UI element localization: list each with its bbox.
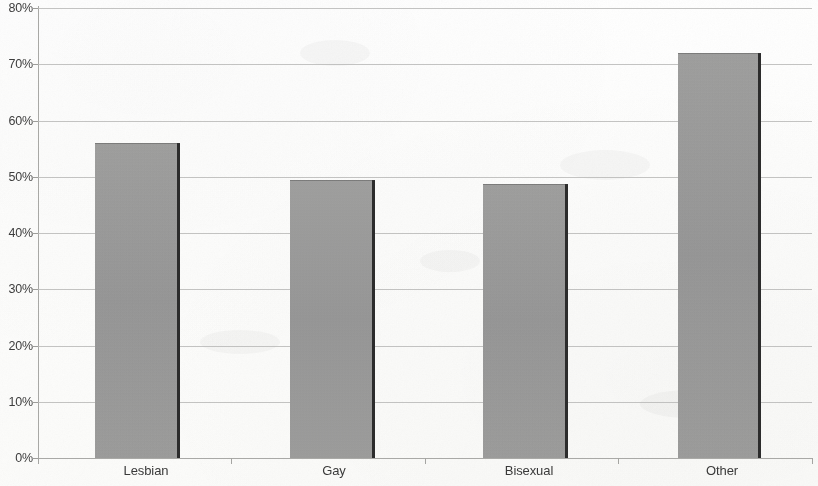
x-axis-tick bbox=[38, 458, 39, 464]
bar-gay bbox=[290, 180, 375, 458]
y-tick-label: 40% bbox=[9, 226, 33, 240]
y-tick-label: 50% bbox=[9, 170, 33, 184]
x-axis-tick bbox=[231, 458, 232, 464]
x-tick-label-bisexual: Bisexual bbox=[505, 463, 553, 478]
y-tick-label: 60% bbox=[9, 114, 33, 128]
bar-lesbian bbox=[95, 143, 180, 458]
bar-chart-figure: 80% 70% 60% 50% 40% 30% 20% 10% 0% bbox=[0, 0, 818, 486]
y-tick-label: 10% bbox=[9, 395, 33, 409]
y-tick-label: 80% bbox=[9, 1, 33, 15]
x-tick-label-lesbian: Lesbian bbox=[124, 463, 169, 478]
bar-other bbox=[678, 53, 761, 458]
y-axis-labels: 80% 70% 60% 50% 40% 30% 20% 10% 0% bbox=[0, 0, 33, 486]
y-tick-label: 70% bbox=[9, 57, 33, 71]
x-tick-label-gay: Gay bbox=[322, 463, 346, 478]
x-tick-label-other: Other bbox=[706, 463, 738, 478]
x-axis-tick bbox=[812, 458, 813, 464]
bar-bisexual bbox=[483, 184, 568, 458]
y-tick-label: 0% bbox=[15, 451, 33, 465]
plot-area bbox=[38, 8, 812, 458]
x-axis-tick bbox=[425, 458, 426, 464]
gridline-80 bbox=[38, 8, 812, 9]
y-tick-label: 20% bbox=[9, 339, 33, 353]
y-tick-label: 30% bbox=[9, 282, 33, 296]
x-axis-tick bbox=[618, 458, 619, 464]
